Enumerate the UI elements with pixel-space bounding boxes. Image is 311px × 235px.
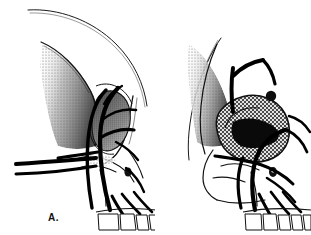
tumor-nodule	[266, 91, 276, 101]
panel-a: A.	[0, 0, 156, 235]
panel-a-label: A.	[48, 213, 59, 223]
panel-b: B.	[155, 0, 311, 235]
panel-b-illustration	[155, 0, 311, 235]
panel-a-illustration	[0, 0, 156, 235]
figure-root: A.	[0, 0, 311, 235]
upper-teeth-row	[98, 214, 156, 230]
